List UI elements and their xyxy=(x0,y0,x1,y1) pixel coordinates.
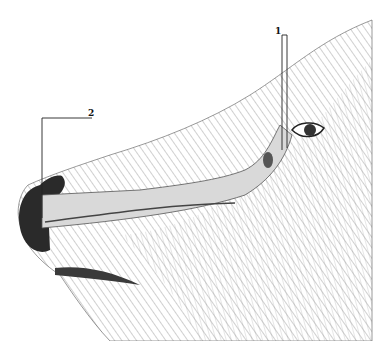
anatomy-figure: 1 2 xyxy=(0,0,375,341)
label-2: 2 xyxy=(88,108,94,118)
head-illustration xyxy=(0,0,375,341)
label-1: 1 xyxy=(275,26,281,36)
lacrimal-sac xyxy=(263,152,273,168)
